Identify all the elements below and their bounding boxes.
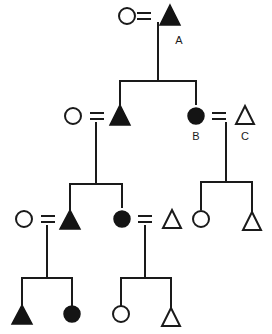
symbol-male-filled-IV-1 xyxy=(12,305,32,324)
symbol-female-filled-II-3 xyxy=(188,108,204,124)
symbol-female-open-III-1 xyxy=(16,211,32,227)
couple-gen1: A xyxy=(119,5,183,46)
symbol-female-filled-III-3 xyxy=(114,211,130,227)
symbol-female-open-II-1 xyxy=(65,108,81,124)
symbol-male-open-IV-4 xyxy=(162,308,180,326)
symbol-female-filled-IV-2 xyxy=(64,306,80,322)
couple-gen3-middle xyxy=(114,210,181,228)
generation-4-symbols xyxy=(12,305,180,326)
descent-gen3-left xyxy=(21,225,73,306)
couple-gen2-right: B C xyxy=(188,106,254,142)
pedigree-canvas: A B C xyxy=(0,0,272,334)
symbol-male-filled-III-2 xyxy=(60,210,80,229)
symbol-female-open-I-1 xyxy=(119,8,135,24)
symbol-male-filled-II-2 xyxy=(110,105,130,125)
symbol-male-open-III-6 xyxy=(243,212,261,230)
symbol-male-filled-I-2 xyxy=(160,5,180,25)
symbol-male-open-III-4 xyxy=(163,210,181,228)
couple-gen2-left xyxy=(65,105,130,125)
symbol-female-open-IV-3 xyxy=(113,306,129,322)
label-b: B xyxy=(192,130,199,142)
descent-gen3-middle xyxy=(120,225,172,308)
symbol-male-open-II-4 xyxy=(236,106,254,124)
descent-gen1 xyxy=(119,22,197,105)
label-a: A xyxy=(175,34,183,46)
offspring-gen3-right xyxy=(193,211,261,230)
descent-gen2-left xyxy=(69,122,123,210)
pedigree-diagram: A B C xyxy=(0,0,272,334)
label-c: C xyxy=(241,130,249,142)
symbol-female-open-III-5 xyxy=(193,211,209,227)
